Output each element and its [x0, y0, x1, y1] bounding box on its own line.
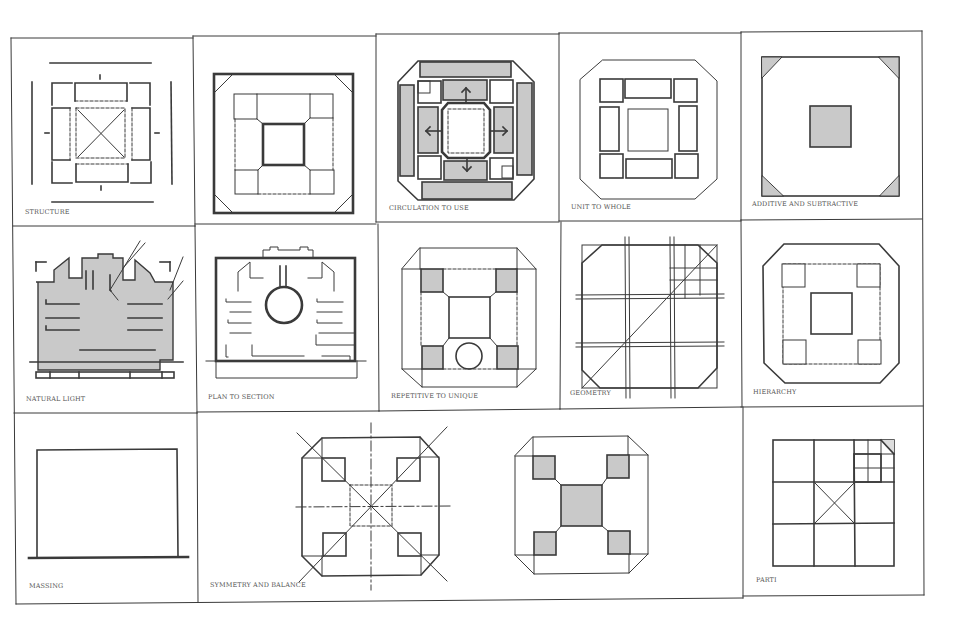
- cell-natural-light: NATURAL LIGHT: [13, 226, 196, 413]
- unit-to-whole-diagram: [560, 33, 741, 221]
- cell-additive-and-subtractive: ADDITIVE AND SUBTRACTIVE: [742, 32, 922, 220]
- structure-diagram: [12, 38, 194, 226]
- cell-label: NATURAL LIGHT: [26, 395, 85, 403]
- geometry-diagram: [561, 221, 742, 409]
- circulation-to-use-diagram: [377, 34, 559, 222]
- parti-diagram: [744, 407, 924, 596]
- repetitive-to-unique-diagram: [379, 222, 561, 410]
- cell-circulation-to-use: CIRCULATION TO USE: [377, 34, 559, 222]
- cell-label: REPETITIVE TO UNIQUE: [391, 392, 478, 400]
- cell-parti: PARTI: [744, 407, 924, 596]
- hierarchy-diagram: [742, 220, 923, 407]
- symmetry-and-balance-diagram: [198, 412, 743, 602]
- cell-repetitive-to-unique: REPETITIVE TO UNIQUE: [379, 222, 561, 410]
- cell-label: PLAN TO SECTION: [208, 393, 274, 401]
- cell-label: GEOMETRY: [570, 389, 611, 397]
- plan-to-section-diagram: [196, 224, 378, 412]
- additive-and-subtractive-diagram: [742, 32, 922, 220]
- cell-label: UNIT TO WHOLE: [571, 203, 631, 211]
- cell-unit-to-whole: UNIT TO WHOLE: [560, 33, 741, 221]
- cell-label: ADDITIVE AND SUBTRACTIVE: [752, 200, 858, 208]
- cell-hierarchy: HIERARCHY: [742, 220, 923, 407]
- cell-plan-frame: [194, 36, 376, 224]
- cell-label: MASSING: [29, 582, 63, 590]
- cell-plan-to-section: PLAN TO SECTION: [196, 224, 378, 412]
- cell-label: PARTI: [756, 576, 777, 584]
- cell-massing: MASSING: [15, 413, 197, 603]
- diagram-sheet: STRUCTURE: [0, 0, 959, 628]
- cell-structure: STRUCTURE: [12, 38, 194, 226]
- natural-light-diagram: [13, 226, 196, 413]
- cell-label: SYMMETRY AND BALANCE: [210, 581, 306, 589]
- plan-frame-diagram: [194, 36, 376, 224]
- cell-geometry: GEOMETRY: [561, 221, 742, 409]
- cell-label: HIERARCHY: [753, 388, 796, 396]
- cell-label: CIRCULATION TO USE: [389, 204, 469, 212]
- cell-symmetry-and-balance: SYMMETRY AND BALANCE: [198, 412, 743, 602]
- massing-diagram: [15, 413, 197, 603]
- cell-label: STRUCTURE: [25, 208, 70, 216]
